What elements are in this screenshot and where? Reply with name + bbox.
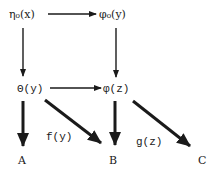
edge-label-f: f(y) (46, 131, 72, 143)
node-eta0: η₀(x) (9, 8, 35, 21)
node-phi: φ(z) (103, 83, 129, 95)
node-a: A (17, 154, 27, 167)
node-c: C (198, 154, 206, 167)
node-b: B (109, 154, 117, 167)
node-theta: Θ(y) (17, 83, 43, 95)
node-phi0: φ₀(y) (99, 8, 126, 21)
commutative-diagram: η₀(x) φ₀(y) Θ(y) φ(z) A B C f(y) g(z) (0, 0, 213, 171)
edge-label-g: g(z) (136, 136, 162, 148)
